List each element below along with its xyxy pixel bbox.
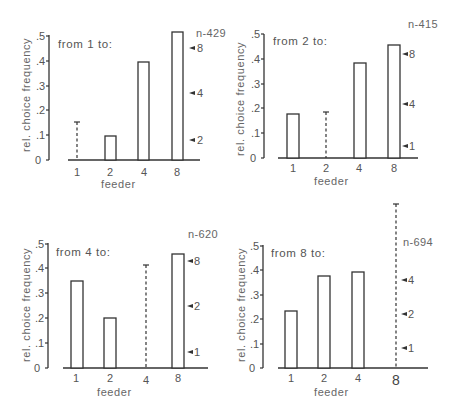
x-tick-label: 4	[143, 374, 149, 386]
x-tick-label: 4	[141, 166, 147, 178]
x-axis-label: feeder	[314, 386, 349, 398]
y-tick-label: .5	[251, 28, 260, 40]
y-tick-label: .2	[35, 312, 44, 324]
panel-title: from 4 to:	[56, 246, 111, 258]
x-tick-label: 2	[107, 166, 113, 178]
y-tick-label: .3	[36, 80, 45, 92]
y-axis-label: rel. choice frequency	[20, 38, 32, 152]
bar-feeder-8	[388, 45, 400, 158]
right-markers: 8 4 1	[402, 48, 415, 152]
marker-arrow-icon	[189, 46, 195, 50]
bar-feeder-1	[287, 114, 299, 158]
y-tick-label: .1	[251, 127, 260, 139]
y-ticks: 0 .1 .2 .3 .4 .5	[34, 238, 48, 374]
y-tick-label: 0	[250, 152, 256, 164]
marker-arrow-icon	[187, 259, 193, 263]
panel-from-4: rel. choice frequency 0 .1 .2 .3 .4 .5 f…	[20, 228, 218, 398]
x-tick-label: 8	[391, 162, 397, 174]
marker-arrow-icon	[401, 346, 407, 350]
marker-arrow-icon	[189, 91, 195, 95]
marker-arrow-icon	[401, 278, 407, 282]
marker-arrow-icon	[187, 304, 193, 308]
y-ticks: 0 .1 .2 .3 .4 .5	[249, 240, 263, 374]
y-ticks: 0 .1 .2 .3 .4 .5	[35, 30, 49, 166]
right-markers: 8 2 1	[187, 255, 200, 358]
marker-label: 4	[408, 274, 414, 286]
marker-arrow-icon	[402, 144, 408, 148]
x-tick-label: 1	[74, 166, 80, 178]
bar-feeder-1	[71, 281, 83, 368]
x-tick-label: 1	[73, 372, 79, 384]
panel-from-8: rel. choice frequency 0 .1 .2 .3 .4 .5 f…	[235, 204, 433, 398]
y-tick-label: .3	[250, 289, 259, 301]
marker-label: 8	[409, 48, 415, 60]
right-markers: 4 2 1	[401, 274, 414, 354]
bar-feeder-2	[318, 276, 330, 368]
panel-from-1: rel. choice frequency 0 .1 .2 .3 .4 .5 f…	[20, 27, 226, 190]
y-tick-label: .1	[250, 338, 259, 350]
y-tick-label: .1	[36, 129, 45, 141]
figure: rel. choice frequency 0 .1 .2 .3 .4 .5 f…	[0, 0, 451, 409]
y-tick-label: 0	[35, 154, 41, 166]
marker-label: 8	[197, 42, 203, 54]
marker-label: 1	[194, 346, 200, 358]
y-tick-label: .3	[35, 287, 44, 299]
x-tick-label: 4	[356, 162, 362, 174]
right-markers: 8 4 2	[189, 42, 203, 146]
marker-label: 8	[194, 255, 200, 267]
y-tick-label: .2	[250, 313, 259, 325]
x-tick-label: 8	[175, 372, 181, 384]
marker-label: 2	[408, 308, 414, 320]
x-tick-label: 2	[107, 372, 113, 384]
marker-label: 1	[408, 342, 414, 354]
y-tick-label: .5	[36, 30, 45, 42]
n-label: n-694	[403, 236, 433, 248]
x-tick-label: 4	[355, 372, 361, 384]
bar-feeder-2	[105, 136, 116, 160]
y-tick-label: .5	[35, 238, 44, 250]
y-ticks: 0 .1 .2 .3 .4 .5	[250, 28, 264, 164]
y-axis-label: rel. choice frequency	[235, 248, 247, 362]
marker-arrow-icon	[189, 138, 195, 142]
n-label: n-415	[408, 18, 438, 30]
y-tick-label: .4	[251, 53, 260, 65]
x-tick-label: 1	[288, 372, 294, 384]
marker-arrow-icon	[402, 52, 408, 56]
x-tick-label: 2	[321, 372, 327, 384]
y-tick-label: 0	[249, 362, 255, 374]
panel-title: from 2 to:	[273, 35, 328, 47]
x-axis-label: feeder	[314, 175, 349, 187]
marker-arrow-icon	[402, 102, 408, 106]
panel-title: from 8 to:	[271, 247, 326, 259]
marker-arrow-icon	[187, 350, 193, 354]
x-tick-label: 1	[290, 162, 296, 174]
y-tick-label: .1	[35, 337, 44, 349]
marker-label: 2	[197, 134, 203, 146]
bar-feeder-4	[138, 62, 149, 160]
y-tick-label: .4	[36, 55, 45, 67]
y-tick-label: .3	[251, 78, 260, 90]
marker-label: 1	[409, 140, 415, 152]
x-axis-label: feeder	[97, 386, 132, 398]
x-tick-label: 2	[323, 162, 329, 174]
n-label: n-429	[196, 27, 226, 39]
y-tick-label: .4	[35, 262, 44, 274]
marker-label: 2	[194, 300, 200, 312]
x-tick-label: 8	[174, 166, 180, 178]
bar-feeder-4	[354, 63, 366, 158]
marker-label: 4	[409, 98, 415, 110]
panel-title: from 1 to:	[58, 38, 113, 50]
y-axis-label: rel. choice frequency	[20, 248, 32, 362]
panel-from-2: rel. choice frequency 0 .1 .2 .3 .4 .5 f…	[234, 18, 438, 187]
bar-feeder-1	[285, 311, 297, 368]
y-tick-label: .5	[250, 240, 259, 252]
n-label: n-620	[188, 228, 218, 240]
bar-feeder-8	[172, 32, 183, 160]
bar-feeder-4	[352, 272, 364, 368]
bar-feeder-8	[172, 254, 184, 368]
y-axis-label: rel. choice frequency	[234, 42, 246, 156]
x-tick-label: 8	[392, 372, 400, 388]
y-tick-label: .2	[251, 102, 260, 114]
marker-arrow-icon	[401, 312, 407, 316]
y-tick-label: .4	[250, 264, 259, 276]
